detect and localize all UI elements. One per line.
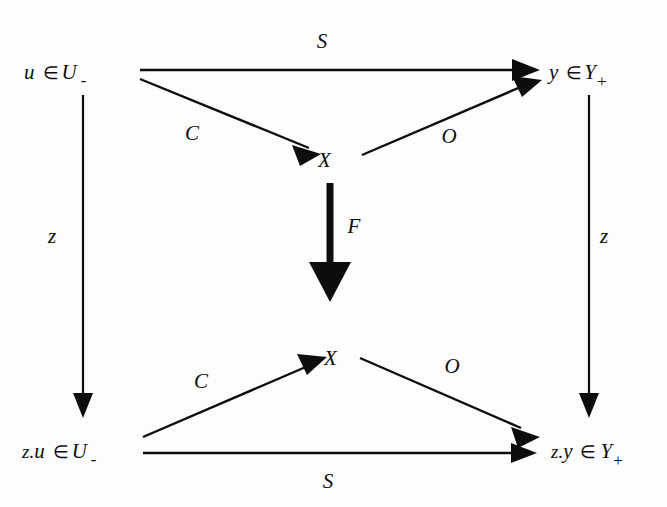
node-top-left-operator: ∈ — [43, 63, 59, 83]
edge-lines — [83, 70, 589, 453]
node-top-right-variable: y — [547, 60, 559, 84]
node-label-bottom-state: X — [323, 346, 338, 370]
edge-label-top-O: O — [441, 124, 456, 148]
edge-line-top-C — [140, 79, 309, 148]
edge-label-bottom-C: C — [194, 369, 209, 393]
node-bottom-right-subscript: + — [613, 451, 623, 470]
edge-label-top-S: S — [317, 29, 328, 53]
edge-label-top-C: C — [185, 121, 200, 145]
node-bottom-left-subscript: - — [91, 450, 97, 469]
node-label-top-left: u∈U- — [24, 60, 87, 90]
node-bottom-left-operator: ∈ — [53, 442, 69, 462]
edge-label-center-F: F — [347, 214, 361, 238]
arrowhead-left-z — [73, 393, 93, 418]
arrowhead-bottom-C — [297, 354, 327, 375]
edge-arrowheads — [73, 59, 599, 463]
node-bottom-right-variable: y — [561, 439, 573, 463]
node-label-bottom-left: z.u∈U- — [21, 439, 97, 469]
arrowhead-top-O — [512, 76, 542, 97]
node-bottom-right-operator: ∈ — [580, 442, 596, 462]
diagram-canvas: u∈U- y∈Y+ X X z.u∈U- z.y∈Y+ S C O F C O … — [0, 0, 667, 507]
arrowhead-right-z — [579, 393, 599, 418]
node-top-left-subscript: - — [81, 71, 87, 90]
edge-line-bottom-C — [143, 363, 315, 437]
arrowhead-bottom-S — [511, 443, 537, 463]
node-top-right-operator: ∈ — [566, 63, 582, 83]
node-label-bottom-right: z.y∈Y+ — [550, 439, 623, 470]
node-bottom-left-prefix: z. — [21, 441, 34, 462]
edge-label-left-z: z — [47, 224, 56, 248]
edge-label-right-z: z — [599, 224, 608, 248]
node-label-top-right: y∈Y+ — [547, 60, 607, 91]
node-top-left-variable: u — [24, 60, 35, 84]
edge-line-bottom-O — [360, 358, 521, 428]
edge-label-bottom-O: O — [444, 354, 459, 378]
node-bottom-left-variable: u — [34, 439, 45, 463]
node-bottom-right-prefix: z. — [550, 441, 563, 462]
commutative-diagram: u∈U- y∈Y+ X X z.u∈U- z.y∈Y+ S C O F C O … — [0, 0, 667, 507]
edge-label-bottom-S: S — [323, 469, 334, 493]
node-bottom-left-space: U — [72, 439, 89, 463]
node-top-right-subscript: + — [597, 72, 607, 91]
node-label-top-state: X — [317, 148, 332, 172]
node-top-left-space: U — [62, 60, 79, 84]
arrowhead-center-F — [309, 262, 351, 302]
